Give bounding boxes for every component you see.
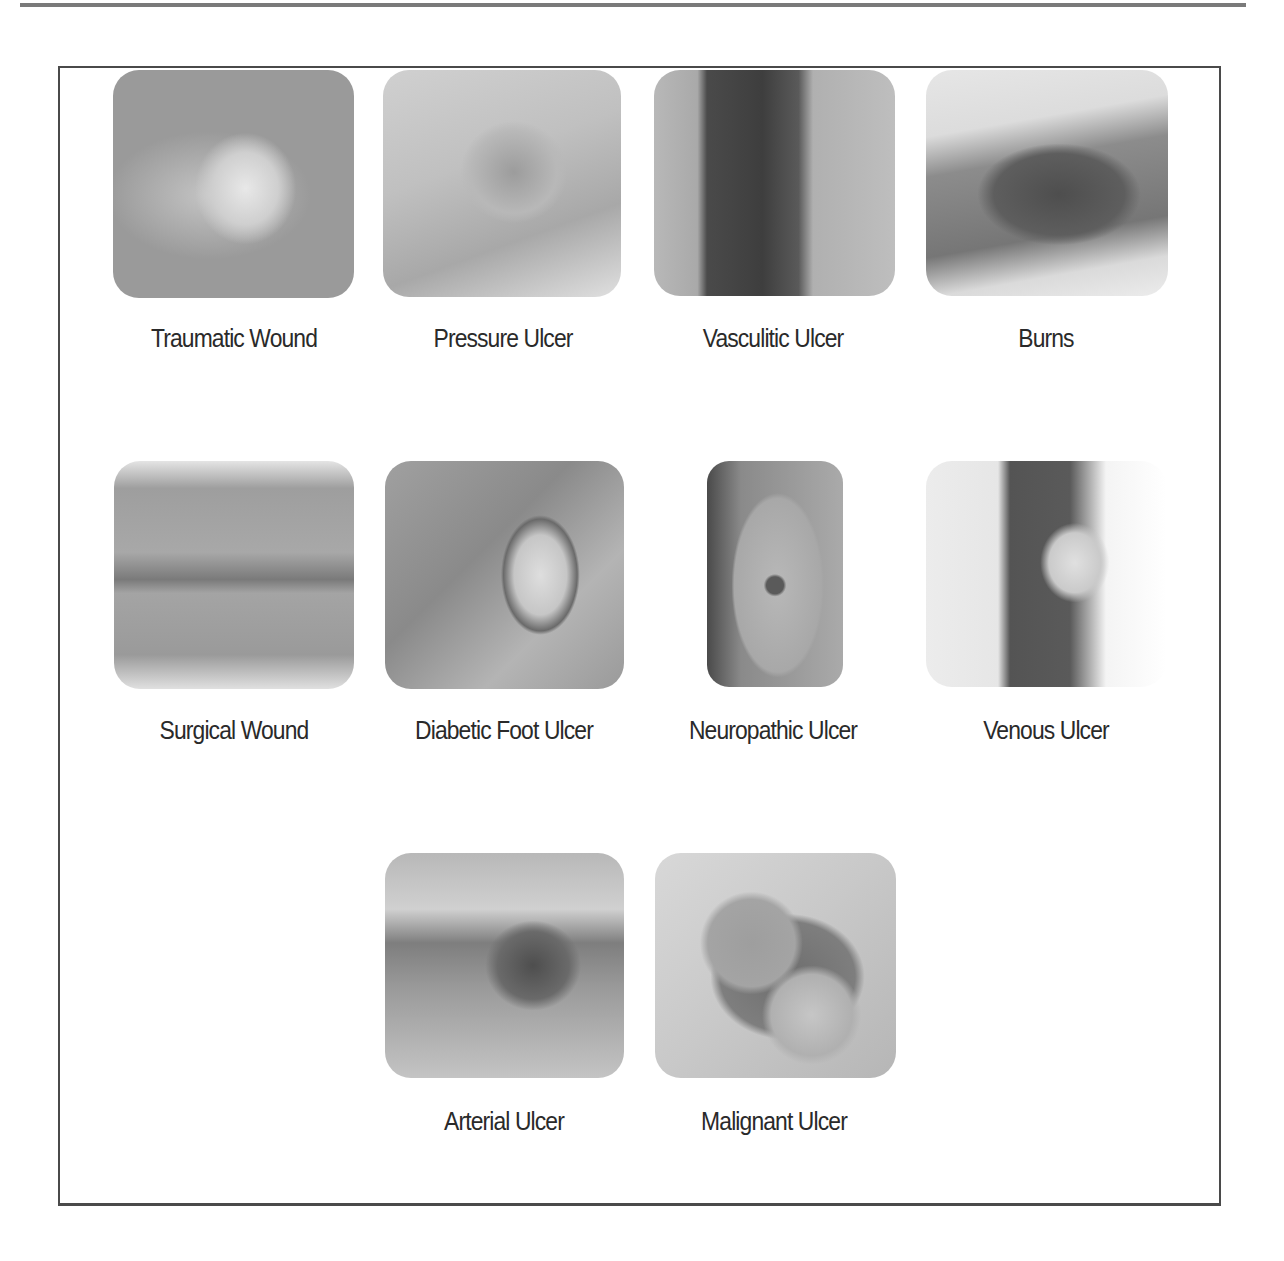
diabetic-foot-ulcer-label: Diabetic Foot Ulcer — [372, 715, 636, 746]
burns-image — [926, 70, 1168, 296]
diabetic-foot-ulcer-image — [385, 461, 624, 689]
arterial-ulcer-image — [385, 853, 624, 1078]
vasculitic-ulcer-label: Vasculitic Ulcer — [641, 323, 905, 354]
venous-ulcer-label: Venous Ulcer — [914, 715, 1178, 746]
traumatic-wound-image — [113, 70, 354, 298]
traumatic-wound-label: Traumatic Wound — [102, 323, 366, 354]
malignant-ulcer-label: Malignant Ulcer — [642, 1106, 906, 1137]
vasculitic-ulcer-image — [654, 70, 895, 296]
neuropathic-ulcer-label: Neuropathic Ulcer — [641, 715, 905, 746]
arterial-ulcer-label: Arterial Ulcer — [372, 1106, 636, 1137]
venous-ulcer-image — [926, 461, 1166, 687]
surgical-wound-label: Surgical Wound — [102, 715, 366, 746]
malignant-ulcer-image — [655, 853, 896, 1078]
surgical-wound-image — [114, 461, 354, 689]
top-rule — [20, 3, 1246, 7]
pressure-ulcer-label: Pressure Ulcer — [371, 323, 635, 354]
pressure-ulcer-image — [383, 70, 621, 297]
neuropathic-ulcer-image — [707, 461, 843, 687]
burns-label: Burns — [914, 323, 1178, 354]
